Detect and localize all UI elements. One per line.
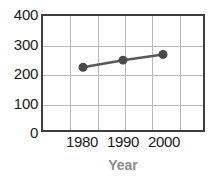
data-point-marker: 2000: 265 bbox=[159, 50, 168, 59]
x-tick-label: 2000 bbox=[134, 134, 194, 149]
y-tick-label: 100 bbox=[4, 96, 38, 111]
y-tick-label: 400 bbox=[4, 7, 38, 22]
data-point-marker: 1980: 220 bbox=[79, 63, 88, 72]
data-point-marker: 1990: 245 bbox=[119, 56, 128, 65]
plot-area: 1980: 2201990: 2452000: 265 bbox=[41, 14, 205, 132]
y-axis-tick-labels: 0100200300400 bbox=[0, 0, 38, 185]
data-series-layer: 1980: 2201990: 2452000: 265 bbox=[43, 16, 203, 130]
y-tick-label: 300 bbox=[4, 37, 38, 52]
x-axis-title: Year bbox=[41, 158, 205, 172]
line-chart-figure: 0100200300400 1980: 2201990: 2452000: 26… bbox=[0, 0, 212, 185]
y-tick-label: 200 bbox=[4, 66, 38, 81]
x-axis-tick-labels: 198019902000 bbox=[0, 134, 212, 154]
